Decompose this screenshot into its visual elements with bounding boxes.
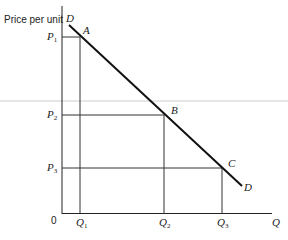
q2-letter: Q bbox=[159, 216, 167, 228]
p1-subscript: 1 bbox=[54, 36, 58, 44]
q1-label: Q1 bbox=[76, 216, 87, 230]
p3-letter: P bbox=[47, 161, 54, 173]
p2-label: P2 bbox=[47, 108, 57, 122]
q2-subscript: 2 bbox=[167, 222, 171, 230]
p2-subscript: 2 bbox=[54, 114, 58, 122]
p1-label: P1 bbox=[47, 30, 57, 44]
q2-label: Q2 bbox=[159, 216, 170, 230]
q1-subscript: 1 bbox=[84, 222, 88, 230]
p3-label: P3 bbox=[47, 161, 57, 175]
demand-diagram bbox=[0, 0, 288, 240]
point-a-label: A bbox=[83, 24, 90, 36]
q3-subscript: 3 bbox=[225, 222, 229, 230]
q3-letter: Q bbox=[217, 216, 225, 228]
point-c-label: C bbox=[228, 157, 235, 169]
curve-label-start: D bbox=[66, 12, 74, 24]
q3-label: Q3 bbox=[217, 216, 228, 230]
origin-label: 0 bbox=[51, 215, 57, 226]
y-axis-label: Price per unit bbox=[4, 14, 63, 25]
demand-curve bbox=[69, 25, 242, 186]
curve-label-end: D bbox=[244, 181, 252, 193]
p2-letter: P bbox=[47, 108, 54, 120]
p3-subscript: 3 bbox=[54, 167, 58, 175]
p1-letter: P bbox=[47, 30, 54, 42]
q1-letter: Q bbox=[76, 216, 84, 228]
point-b-label: B bbox=[171, 104, 178, 116]
x-axis-label: Q bbox=[272, 216, 280, 228]
